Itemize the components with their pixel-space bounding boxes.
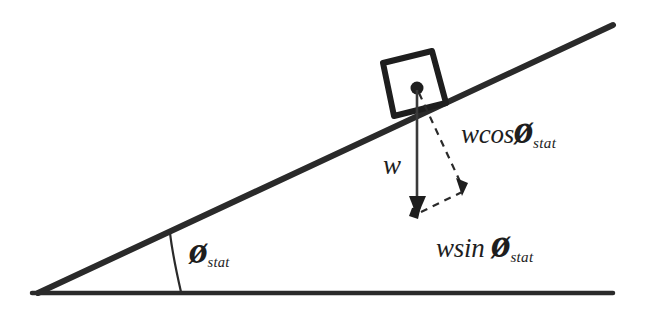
label-normal-component: wcosøstat (461, 110, 556, 151)
label-wcos-phi: ø (514, 108, 533, 151)
incline-angle-arc (170, 233, 181, 292)
inclined-plane-diagram: wcosøstat wsin østat w østat (0, 0, 647, 317)
label-wcos-function: wcos (461, 119, 514, 149)
label-angle-phi: ø (189, 229, 207, 271)
label-wsin-subscript: stat (510, 249, 533, 265)
weight-vector-arrow-tail (409, 206, 421, 219)
label-weight: w (383, 152, 401, 179)
label-wsin-function: wsin (436, 233, 484, 263)
parallel-component-dashed-construction (421, 192, 462, 212)
label-angle-subscript: stat (207, 254, 229, 270)
label-wcos-subscript: stat (533, 135, 556, 151)
diagram-canvas (0, 0, 647, 317)
label-parallel-component: wsin østat (436, 224, 533, 265)
label-incline-angle: østat (189, 232, 230, 270)
label-wsin-phi: ø (491, 222, 510, 265)
